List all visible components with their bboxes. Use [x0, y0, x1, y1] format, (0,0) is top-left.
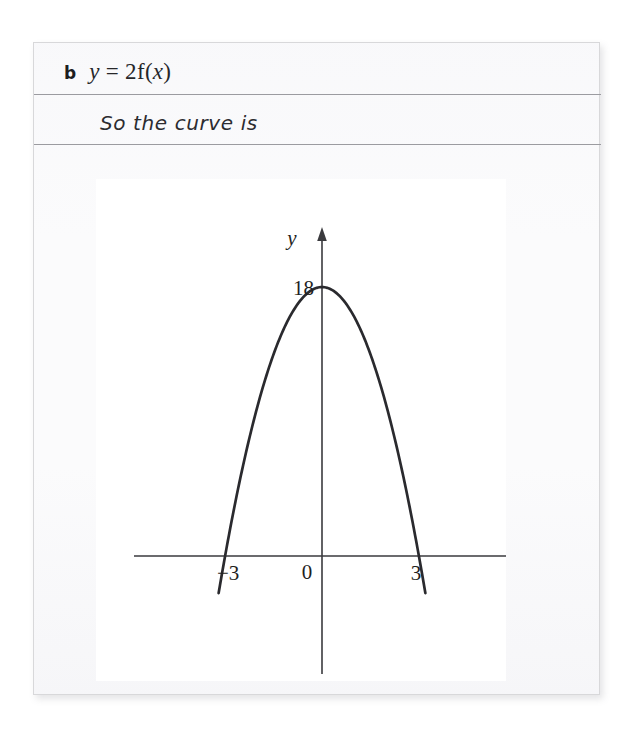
- equation-coefficient: 2: [125, 59, 137, 84]
- answer-row-part-b: b y = 2f(x): [64, 59, 171, 93]
- x-axis-group: [134, 551, 506, 561]
- y-axis-arrowhead: [317, 227, 327, 241]
- y-axis-label: y: [285, 226, 297, 250]
- equation-function-name: f: [137, 59, 145, 84]
- equation-variable: x: [153, 59, 164, 84]
- equation-lhs: y: [89, 59, 100, 84]
- part-label-b: b: [64, 63, 76, 83]
- y-axis-group: [317, 227, 327, 674]
- equation-part-b: y = 2f(x): [89, 59, 171, 85]
- answer-row-conclusion: So the curve is: [100, 111, 258, 143]
- graph-panel: y x 18 −3 0 3: [96, 179, 506, 681]
- equation-open-paren: (: [145, 59, 153, 84]
- worksheet-card: b y = 2f(x) So the curve is y x: [33, 42, 600, 695]
- x-tick-label-zero: 0: [302, 560, 313, 584]
- equation-close-paren: ): [163, 59, 171, 84]
- ruled-line-1: [34, 94, 601, 95]
- x-tick-label-pos3: 3: [411, 561, 422, 585]
- parabola-graph: y x 18 −3 0 3: [96, 179, 506, 681]
- x-tick-label-neg3: −3: [217, 561, 239, 585]
- equation-equals-sign: =: [106, 59, 119, 84]
- y-tick-label-18: 18: [293, 276, 314, 300]
- conclusion-text: So the curve is: [100, 111, 258, 135]
- ruled-line-2: [34, 144, 601, 145]
